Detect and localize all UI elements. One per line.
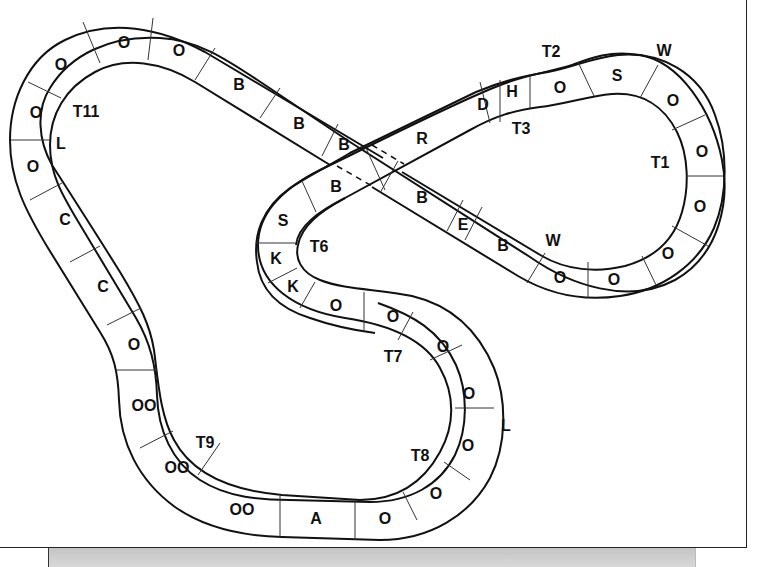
turn-label-t2: T2 [542, 43, 561, 60]
segment-label: R [416, 130, 428, 147]
segment-label: O [387, 308, 399, 325]
segment-label: B [233, 76, 245, 93]
segment-label: O [608, 271, 620, 288]
segment-label: O [118, 34, 130, 51]
segment-label: O [430, 485, 442, 502]
segment-label: K [287, 278, 299, 295]
turn-labels: T1 T2 T3 T6 T7 T8 T9 T11 [73, 43, 670, 464]
marker-l-left: L [56, 135, 66, 152]
footer-bar [48, 548, 696, 567]
segment-label: O [662, 245, 674, 262]
segment-label: O [330, 297, 342, 314]
segment-label: O [173, 42, 185, 59]
turn-label-t6: T6 [310, 238, 329, 255]
segment-label: O [696, 143, 708, 160]
segment-label: O [437, 338, 449, 355]
segment-label: B [497, 237, 509, 254]
segment-label: C [59, 211, 71, 228]
segment-label: O [462, 437, 474, 454]
segment-label: O [554, 269, 566, 286]
segment-label: A [310, 510, 322, 527]
segment-label: O [694, 198, 706, 215]
turn-label-t1: T1 [651, 154, 670, 171]
segment-label: O [379, 510, 391, 527]
segment-label: E [458, 216, 469, 233]
segment-label: O [554, 79, 566, 96]
turn-label-t9: T9 [196, 434, 215, 451]
turn-label-t7: T7 [384, 348, 403, 365]
page-frame-right-border [746, 0, 747, 548]
segment-label: K [270, 250, 282, 267]
segment-label: S [278, 212, 289, 229]
segment-label: B [330, 178, 342, 195]
segment-label: D [477, 96, 489, 113]
segment-label: C [97, 278, 109, 295]
segment-label: O [30, 104, 42, 121]
track-edge-outer [40, 38, 724, 500]
segment-label: H [506, 83, 518, 100]
segment-label: S [612, 67, 623, 84]
segment-label: OO [230, 501, 255, 518]
segment-label: O [128, 336, 140, 353]
segment-label: B [293, 115, 305, 132]
segment-label: O [667, 92, 679, 109]
segment-label: OO [165, 459, 190, 476]
marker-w-top: W [656, 42, 672, 59]
segment-label: O [463, 385, 475, 402]
marker-l-right: L [501, 417, 511, 434]
marker-w-bottom: W [545, 232, 561, 249]
turn-label-t3: T3 [512, 120, 531, 137]
turn-label-t11: T11 [73, 103, 100, 120]
track-canvas: O O O B B B R D H O S O O O O O O B E B … [0, 0, 766, 567]
segment-label: O [27, 158, 39, 175]
turn-label-t8: T8 [411, 447, 430, 464]
segment-label: OO [132, 397, 157, 414]
track-diagram: O O O B B B R D H O S O O O O O O B E B … [0, 0, 766, 567]
segment-labels: O O O B B B R D H O S O O O O O O B E B … [27, 34, 708, 527]
segment-label: O [55, 56, 67, 73]
segment-label: B [338, 136, 350, 153]
segment-label: B [416, 189, 428, 206]
